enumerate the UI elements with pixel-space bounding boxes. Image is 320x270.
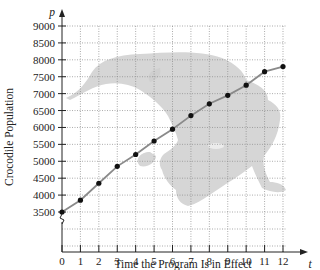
x-axis-label: Time the Program Is in Effect [114, 258, 252, 270]
chart: 0123456789101112 35004000450050005500600… [0, 0, 320, 270]
x-axis-symbol: t [308, 258, 312, 270]
y-tick-label: 4000 [33, 189, 56, 201]
y-tick-label: 8000 [33, 54, 56, 66]
data-point [133, 152, 138, 157]
y-tick-label: 5000 [33, 155, 56, 167]
y-tick-label: 6000 [33, 121, 56, 133]
x-tick-label: 12 [278, 255, 289, 267]
y-ticks: 3500400045005000550060006500700075008000… [33, 20, 66, 218]
y-tick-label: 9000 [33, 20, 56, 32]
y-tick-label: 7500 [33, 71, 56, 83]
data-point [262, 69, 267, 74]
x-tick-label: 11 [259, 255, 270, 267]
y-tick-label: 7000 [33, 88, 56, 100]
data-point [78, 198, 83, 203]
data-point [170, 127, 175, 132]
y-axis-symbol: p [48, 6, 55, 19]
data-point [244, 83, 249, 88]
y-axis-label: Crocodile Population [3, 88, 16, 186]
y-tick-label: 4500 [33, 172, 56, 184]
y-tick-label: 5500 [33, 138, 56, 150]
x-tick-label: 2 [96, 255, 102, 267]
data-point [96, 181, 101, 186]
data-point [280, 64, 285, 69]
data-point [115, 164, 120, 169]
y-tick-label: 6500 [33, 105, 56, 117]
x-tick-label: 1 [78, 255, 84, 267]
data-point [225, 93, 230, 98]
y-tick-label: 8500 [33, 37, 56, 49]
data-point [188, 113, 193, 118]
y-tick-label: 3500 [33, 206, 56, 218]
x-tick-label: 0 [59, 255, 65, 267]
y-axis-arrow-icon [59, 9, 65, 17]
data-point [207, 101, 212, 106]
x-axis-arrow-icon [300, 249, 308, 255]
data-point [151, 138, 156, 143]
data-point [59, 209, 64, 214]
